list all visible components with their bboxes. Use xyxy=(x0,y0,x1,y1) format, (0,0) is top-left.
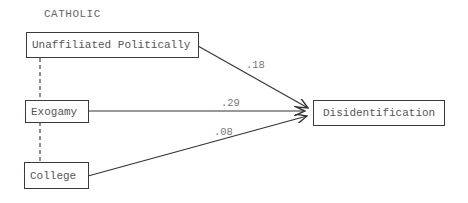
node-label: Disidentification xyxy=(323,107,435,119)
node-label: Exogamy xyxy=(31,106,77,118)
node-label: College xyxy=(30,170,76,182)
node-label: Unaffiliated Politically xyxy=(32,39,190,51)
arrow-college-to-disidentification xyxy=(88,116,307,176)
diagram-title: CATHOLIC xyxy=(44,8,101,20)
arrow-unaffiliated-to-disidentification xyxy=(198,46,308,108)
node-college: College xyxy=(24,162,89,189)
coefficient-unaffiliated: .18 xyxy=(246,59,265,71)
node-exogamy: Exogamy xyxy=(25,100,89,123)
coefficient-exogamy: .29 xyxy=(221,97,240,109)
node-disidentification: Disidentification xyxy=(313,100,445,126)
coefficient-college: .08 xyxy=(214,126,233,138)
node-unaffiliated-politically: Unaffiliated Politically xyxy=(26,32,199,58)
